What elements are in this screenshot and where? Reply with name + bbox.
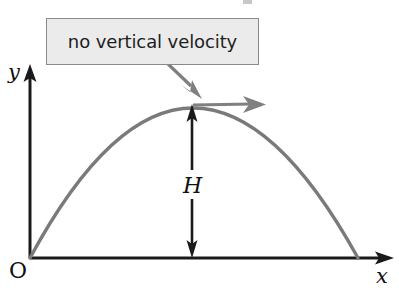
x-axis-label: x [376, 264, 388, 288]
horizontal-velocity-arrow [193, 96, 266, 113]
callout-label-box: no vertical velocity [46, 18, 259, 65]
cropped-text-artifact [243, 0, 252, 4]
projectile-motion-figure: no vertical velocity y x O H [0, 0, 399, 301]
y-axis-label: y [8, 60, 20, 84]
callout-label-text: no vertical velocity [68, 33, 237, 51]
y-axis [24, 64, 37, 258]
origin-label: O [9, 258, 27, 283]
callout-pointer-arrow [168, 64, 202, 99]
max-height-label: H [180, 172, 205, 199]
x-axis [30, 252, 394, 265]
